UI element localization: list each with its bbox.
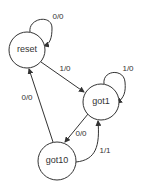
label-reset-got1: 1/0 (59, 64, 71, 73)
transition-got10-got1 (76, 121, 98, 162)
state-got1: got1 (83, 84, 119, 120)
state-diagram: 0/0 1/0 1/0 0/0 1/1 0/0 reset got1 got10 (0, 0, 141, 190)
state-got10-label: got10 (46, 155, 69, 165)
state-reset: reset (9, 32, 45, 68)
transition-got10-reset (29, 69, 53, 142)
state-got10: got10 (38, 142, 76, 180)
label-got10-got1: 1/1 (99, 146, 111, 155)
state-got1-label: got1 (92, 96, 110, 106)
state-reset-label: reset (17, 44, 38, 54)
label-got10-reset: 0/0 (21, 93, 33, 102)
label-reset-reset: 0/0 (52, 12, 64, 21)
label-got1-got10: 0/0 (75, 129, 87, 138)
label-got1-got1: 1/0 (122, 64, 134, 73)
